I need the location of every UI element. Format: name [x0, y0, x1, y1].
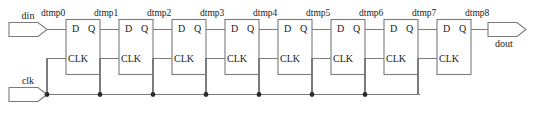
net-label-dtmp6: dtmp6 — [359, 8, 384, 18]
ff2-pin-clk: CLK — [174, 53, 195, 64]
ff4-pin-clk: CLK — [280, 53, 301, 64]
ff6-pin-d: D — [390, 23, 397, 34]
ff3-pin-q: Q — [247, 23, 255, 34]
clk-port-shape — [9, 88, 47, 102]
flipflop-ff5: D Q CLK dtmp5 — [306, 8, 384, 97]
ff6-pin-clk: CLK — [386, 53, 407, 64]
net-label-dtmp1: dtmp1 — [94, 8, 119, 18]
ff0-pin-d: D — [72, 23, 79, 34]
ff0-clk-route — [47, 59, 66, 95]
clk-junction-2 — [151, 92, 156, 97]
net-label-dtmp8: dtmp8 — [465, 8, 490, 18]
flipflop-ff7: D Q CLK dtmp7 — [412, 8, 488, 95]
port-clk: clk — [9, 75, 420, 102]
clk-junction-4 — [257, 92, 262, 97]
schematic-canvas: din clk D Q CLK dtmp0 D Q CLK — [0, 0, 535, 113]
net-label-dtmp4: dtmp4 — [253, 8, 278, 18]
din-port-label: din — [22, 10, 35, 21]
clk-port-label: clk — [22, 75, 34, 86]
clk-junction-6 — [363, 92, 368, 97]
ff3-pin-clk: CLK — [227, 53, 248, 64]
ff5-pin-clk: CLK — [333, 53, 354, 64]
ff1-pin-d: D — [125, 23, 132, 34]
ff1-pin-q: Q — [141, 23, 149, 34]
din-port-shape — [9, 23, 47, 37]
ff7-pin-clk: CLK — [439, 53, 460, 64]
flipflop-ff1: D Q CLK dtmp1 — [94, 8, 172, 97]
flipflop-ff4: D Q CLK dtmp4 — [253, 8, 331, 97]
ff0-pin-clk: CLK — [68, 53, 89, 64]
clk-junction-5 — [310, 92, 315, 97]
ff4-pin-d: D — [284, 23, 291, 34]
dout-port-label: dout — [495, 38, 513, 49]
ff7-pin-d: D — [443, 23, 450, 34]
ff1-pin-clk: CLK — [121, 53, 142, 64]
ff5-clk-route — [312, 59, 331, 95]
flipflop-ff6: D Q CLK dtmp6 — [359, 8, 437, 97]
ff6-pin-q: Q — [406, 23, 414, 34]
ff5-pin-q: Q — [353, 23, 361, 34]
ff5-pin-d: D — [337, 23, 344, 34]
ff2-pin-d: D — [178, 23, 185, 34]
ff2-pin-q: Q — [194, 23, 202, 34]
flipflop-ff2: D Q CLK dtmp2 — [147, 8, 225, 97]
circuit-diagram: din clk D Q CLK dtmp0 D Q CLK — [0, 0, 535, 113]
clk-junction-3 — [204, 92, 209, 97]
net-label-dtmp5: dtmp5 — [306, 8, 331, 18]
ff7-pin-q: Q — [459, 23, 467, 34]
dout-port-shape — [488, 23, 526, 37]
net-label-dtmp7: dtmp7 — [412, 8, 437, 18]
ff7-clk-route — [418, 59, 437, 95]
ff2-clk-route — [153, 59, 172, 95]
ff4-clk-route — [259, 59, 278, 95]
ff3-clk-route — [206, 59, 225, 95]
port-dout: dtmp8 dout — [465, 8, 526, 49]
ff4-pin-q: Q — [300, 23, 308, 34]
clk-junction-0 — [45, 92, 50, 97]
net-label-dtmp0: dtmp0 — [41, 8, 66, 18]
net-label-dtmp2: dtmp2 — [147, 8, 172, 18]
ff0-pin-q: Q — [88, 23, 96, 34]
clk-junction-1 — [98, 92, 103, 97]
ff1-clk-route — [100, 59, 119, 95]
ff3-pin-d: D — [231, 23, 238, 34]
ff6-clk-route — [365, 59, 384, 95]
net-label-dtmp3: dtmp3 — [200, 8, 225, 18]
flipflop-ff0: D Q CLK dtmp0 — [41, 8, 119, 97]
flipflop-ff3: D Q CLK dtmp3 — [200, 8, 278, 97]
